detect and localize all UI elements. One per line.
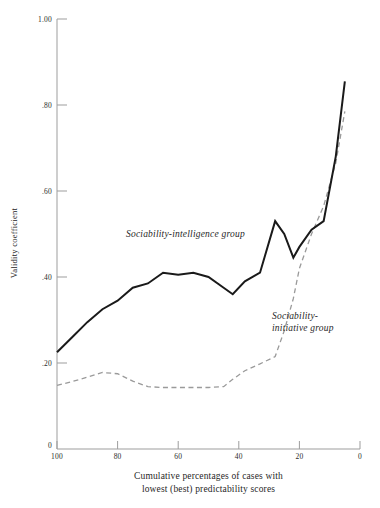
series-annotation-initiative-line-2: initiative group [272, 322, 334, 334]
y-axis-ticks [57, 19, 67, 363]
x-tick-label-4: 40 [235, 452, 243, 461]
x-axis-title: Cumulative percentages of cases with low… [57, 470, 360, 496]
x-tick-label-6: 0 [358, 452, 362, 461]
chart-figure: 1.00 .80 .60 .40 .20 0 100 80 60 40 20 0… [0, 0, 380, 508]
y-tick-label-5: .20 [24, 359, 52, 368]
chart-plot-area [0, 0, 380, 508]
x-axis-ticks [57, 441, 360, 449]
series-annotation-initiative-line-1: Sociability- [272, 310, 334, 322]
series-annotation-sociability-initiative: Sociability- initiative group [272, 310, 334, 334]
x-axis-title-line-2: lowest (best) predictability scores [57, 483, 360, 496]
y-tick-label-1: 1.00 [24, 15, 52, 24]
y-tick-label-3: .60 [24, 187, 52, 196]
x-axis-title-line-1: Cumulative percentages of cases with [57, 470, 360, 483]
x-tick-label-2: 80 [114, 452, 122, 461]
series-line-sociability-initiative [57, 111, 345, 387]
y-tick-label-6: 0 [24, 441, 52, 450]
x-tick-label-3: 60 [174, 452, 182, 461]
y-tick-label-4: .40 [24, 273, 52, 282]
series-annotation-sociability-intelligence: Sociability-intelligence group [126, 228, 245, 240]
y-tick-label-2: .80 [24, 101, 52, 110]
x-tick-label-5: 20 [295, 452, 303, 461]
y-axis-title: Validity coefficient [9, 178, 19, 308]
x-tick-label-1: 100 [51, 452, 63, 461]
